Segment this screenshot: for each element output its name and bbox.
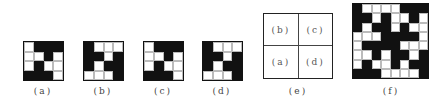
white-cell	[353, 32, 362, 41]
white-cell	[372, 32, 381, 41]
black-cell	[144, 71, 154, 81]
black-cell	[113, 71, 123, 81]
black-cell	[203, 42, 213, 52]
white-cell	[362, 32, 371, 41]
white-cell	[362, 50, 371, 59]
black-cell	[34, 42, 44, 52]
white-cell	[94, 71, 104, 81]
black-cell	[362, 60, 371, 69]
label-f: (f)	[371, 86, 411, 96]
black-cell	[34, 71, 44, 81]
black-cell	[391, 32, 400, 41]
white-cell	[53, 61, 63, 71]
quadrant-top-right: (c)	[298, 14, 332, 46]
white-cell	[154, 52, 164, 62]
black-cell	[173, 42, 183, 52]
black-cell	[353, 69, 362, 78]
label-a: (a)	[23, 86, 63, 96]
white-cell	[34, 52, 44, 62]
white-cell	[353, 60, 362, 69]
white-cell	[372, 4, 381, 13]
white-cell	[391, 69, 400, 78]
quadrant-bottom-left: (a)	[264, 46, 298, 78]
black-cell	[164, 71, 174, 81]
black-cell	[232, 52, 242, 62]
black-cell	[113, 52, 123, 62]
black-cell	[381, 23, 390, 32]
white-cell	[104, 42, 114, 52]
black-cell	[232, 71, 242, 81]
black-cell	[419, 4, 428, 13]
white-cell	[409, 41, 418, 50]
white-cell	[362, 4, 371, 13]
tile-b	[83, 41, 124, 81]
white-cell	[213, 42, 223, 52]
black-cell	[353, 23, 362, 32]
white-cell	[144, 61, 154, 71]
black-cell	[44, 52, 54, 62]
white-cell	[381, 4, 390, 13]
white-cell	[409, 23, 418, 32]
white-cell	[104, 52, 114, 62]
white-cell	[53, 71, 63, 81]
black-cell	[409, 4, 418, 13]
black-cell	[164, 42, 174, 52]
black-cell	[362, 41, 371, 50]
black-cell	[203, 52, 213, 62]
black-cell	[154, 61, 164, 71]
black-cell	[44, 42, 54, 52]
black-cell	[400, 23, 409, 32]
white-cell	[213, 61, 223, 71]
black-cell	[84, 61, 94, 71]
white-cell	[381, 60, 390, 69]
black-cell	[409, 32, 418, 41]
black-cell	[391, 41, 400, 50]
white-cell	[400, 69, 409, 78]
black-cell	[84, 52, 94, 62]
black-cell	[381, 41, 390, 50]
white-cell	[372, 13, 381, 22]
white-cell	[223, 52, 233, 62]
white-cell	[53, 52, 63, 62]
white-cell	[223, 42, 233, 52]
black-cell	[113, 61, 123, 71]
white-cell	[94, 42, 104, 52]
black-cell	[84, 42, 94, 52]
white-cell	[419, 13, 428, 22]
white-cell	[24, 42, 34, 52]
white-cell	[213, 71, 223, 81]
white-cell	[353, 41, 362, 50]
black-cell	[223, 61, 233, 71]
black-cell	[362, 69, 371, 78]
tile-f-composite	[352, 3, 429, 79]
black-cell	[400, 32, 409, 41]
black-cell	[419, 60, 428, 69]
white-cell	[400, 41, 409, 50]
black-cell	[53, 42, 63, 52]
white-cell	[381, 69, 390, 78]
black-cell	[400, 50, 409, 59]
black-cell	[372, 23, 381, 32]
white-cell	[164, 61, 174, 71]
white-cell	[391, 23, 400, 32]
white-cell	[362, 23, 371, 32]
white-cell	[381, 50, 390, 59]
black-cell	[381, 32, 390, 41]
white-cell	[409, 50, 418, 59]
black-cell	[400, 4, 409, 13]
black-cell	[213, 52, 223, 62]
label-b: (b)	[83, 86, 123, 96]
black-cell	[34, 61, 44, 71]
white-cell	[104, 71, 114, 81]
white-cell	[372, 60, 381, 69]
white-cell	[419, 41, 428, 50]
black-cell	[409, 13, 418, 22]
black-cell	[381, 13, 390, 22]
layout-quadrant-box: (b) (c) (a) (d)	[263, 13, 333, 79]
black-cell	[203, 61, 213, 71]
black-cell	[104, 61, 114, 71]
white-cell	[223, 71, 233, 81]
black-cell	[419, 69, 428, 78]
black-cell	[372, 41, 381, 50]
black-cell	[353, 13, 362, 22]
